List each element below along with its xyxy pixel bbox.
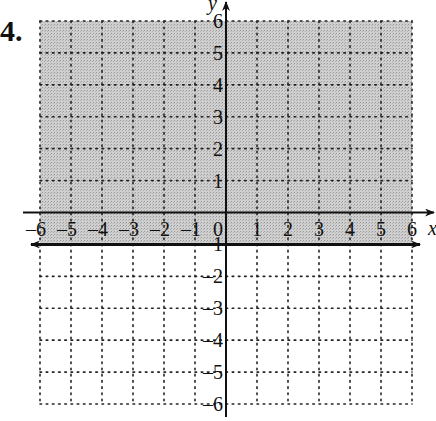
y-tick-label: 2 xyxy=(213,138,223,160)
y-tick-label: 1 xyxy=(213,170,223,192)
y-tick-label: –3 xyxy=(202,297,223,319)
x-tick-label: 6 xyxy=(407,218,417,240)
x-tick-label: 4 xyxy=(345,218,355,240)
y-tick-label: 5 xyxy=(213,42,223,64)
x-tick-label: –5 xyxy=(56,218,77,240)
y-tick-label: –5 xyxy=(202,361,223,383)
y-tick-label: –4 xyxy=(202,329,223,351)
y-axis-label: y xyxy=(206,0,217,15)
coordinate-plane: –6–5–4–3–2–10123456–6–5–4–3–2–1123456xy xyxy=(0,0,436,421)
x-tick-label: 2 xyxy=(283,218,293,240)
y-tick-label: –2 xyxy=(202,265,223,287)
x-axis-label: x xyxy=(427,217,436,239)
x-tick-label: –2 xyxy=(149,218,170,240)
y-tick-label: 3 xyxy=(213,106,223,128)
y-tick-label: –6 xyxy=(202,393,223,415)
x-tick-label: 1 xyxy=(252,218,262,240)
x-tick-label: –4 xyxy=(87,218,108,240)
y-tick-label: 4 xyxy=(213,74,223,96)
x-tick-label: 3 xyxy=(314,218,324,240)
x-tick-label: –1 xyxy=(180,218,201,240)
y-tick-label: –1 xyxy=(202,233,223,255)
x-tick-label: –6 xyxy=(25,218,46,240)
x-tick-label: –3 xyxy=(118,218,139,240)
x-tick-label: 5 xyxy=(376,218,386,240)
